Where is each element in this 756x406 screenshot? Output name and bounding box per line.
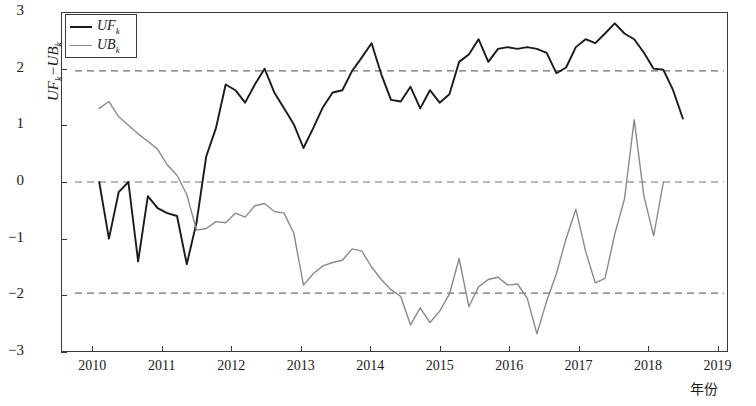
legend-label-ub: UBk — [97, 37, 120, 55]
y-tick-mark — [61, 295, 67, 296]
legend-item-ub: UBk — [70, 37, 136, 55]
series-line-uf-k — [99, 23, 683, 264]
y-tick-label: 2 — [0, 60, 24, 75]
chart-figure: UFk−UBk 年份 3210−1−2−32010201120122013201… — [0, 0, 756, 406]
x-tick-label: 2014 — [340, 358, 400, 374]
y-tick-mark — [61, 69, 67, 70]
y-tick-label: −3 — [0, 343, 24, 358]
y-tick-label: −1 — [0, 230, 24, 245]
x-tick-mark — [370, 346, 371, 352]
x-tick-label: 2010 — [62, 358, 122, 374]
y-tick-mark — [61, 239, 67, 240]
legend-item-uf: UFk — [70, 18, 136, 36]
series-line-ub-k — [99, 102, 663, 334]
x-tick-mark — [231, 346, 232, 352]
y-tick-label: −2 — [0, 286, 24, 301]
x-tick-label: 2011 — [132, 358, 192, 374]
y-tick-mark — [61, 182, 67, 183]
x-tick-mark — [718, 346, 719, 352]
x-tick-mark — [92, 346, 93, 352]
x-tick-mark — [162, 346, 163, 352]
legend-box: UFk UBk — [65, 14, 137, 58]
legend-swatch-ub — [70, 45, 92, 46]
y-tick-label: 0 — [0, 173, 24, 188]
y-tick-mark — [61, 12, 67, 13]
y-tick-mark — [61, 352, 67, 353]
x-tick-label: 2015 — [410, 358, 470, 374]
x-tick-label: 2019 — [688, 358, 748, 374]
y-tick-label: 1 — [0, 116, 24, 131]
x-tick-mark — [579, 346, 580, 352]
x-tick-label: 2018 — [618, 358, 678, 374]
legend-label-uf-sub: k — [116, 26, 120, 36]
x-tick-label: 2016 — [479, 358, 539, 374]
x-tick-label: 2017 — [549, 358, 609, 374]
x-tick-mark — [509, 346, 510, 352]
x-tick-mark — [440, 346, 441, 352]
legend-label-ub-sub: k — [116, 45, 120, 55]
x-tick-label: 2013 — [271, 358, 331, 374]
x-tick-mark — [648, 346, 649, 352]
y-tick-mark — [61, 125, 67, 126]
legend-swatch-uf — [70, 26, 92, 28]
y-tick-label: 3 — [0, 3, 24, 18]
legend-label-uf: UFk — [97, 18, 120, 36]
plot-canvas — [0, 0, 756, 406]
x-tick-label: 2012 — [201, 358, 261, 374]
x-tick-mark — [301, 346, 302, 352]
